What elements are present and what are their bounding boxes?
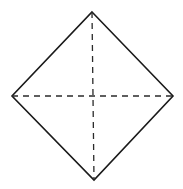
diamond-diagram bbox=[0, 0, 183, 189]
diagram-canvas bbox=[0, 0, 183, 189]
